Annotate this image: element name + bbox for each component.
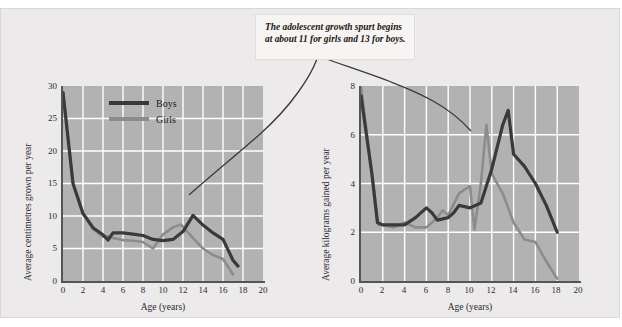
x-tick-right-0: 0 [351,285,371,295]
x-axis-label-left: Age (years) [63,302,263,312]
x-tick-left-18: 18 [233,285,253,295]
x-tick-left-10: 10 [153,285,173,295]
x-tick-right-12: 12 [481,285,501,295]
y-tick-left-5: 5 [31,243,57,253]
figure-panel: Average centimetres grown per year 30 25… [0,8,620,318]
y-tick-right-2: 2 [329,227,355,237]
x-axis-label-right: Age (years) [361,302,579,312]
x-tick-right-20: 20 [568,285,588,295]
y-tick-right-4: 4 [329,179,355,189]
x-tick-left-20: 20 [253,285,273,295]
y-tick-left-10: 10 [31,211,57,221]
gridlines-right [361,86,579,281]
x-axis-line-right [359,281,581,283]
x-tick-left-8: 8 [133,285,153,295]
callout-annotation: The adolescent growth spurt begins at ab… [255,14,415,60]
x-tick-left-14: 14 [193,285,213,295]
y-tick-left-20: 20 [31,146,57,156]
x-tick-left-2: 2 [73,285,93,295]
x-tick-left-4: 4 [93,285,113,295]
x-tick-left-6: 6 [113,285,133,295]
legend-swatch-girls-icon [109,117,149,120]
y-tick-right-8: 8 [329,81,355,91]
legend-label-boys: Boys [156,98,177,109]
y-tick-right-6: 6 [329,130,355,140]
series-line-girls-right [361,86,557,279]
x-tick-right-14: 14 [503,285,523,295]
callout-text: The adolescent growth spurt begins at ab… [265,22,405,44]
y-tick-left-25: 25 [31,113,57,123]
x-tick-left-16: 16 [213,285,233,295]
series-line-boys-right [361,96,557,232]
x-tick-right-2: 2 [372,285,392,295]
x-tick-right-4: 4 [394,285,414,295]
legend-left: Boys Girls [109,95,177,127]
y-axis-label-right: Average kilograms gained per year [321,148,331,281]
x-axis-line-left [61,281,265,283]
legend-item-boys: Boys [109,95,177,111]
legend-label-girls: Girls [156,114,176,125]
x-tick-left-0: 0 [53,285,73,295]
y-tick-left-30: 30 [31,81,57,91]
x-tick-right-6: 6 [416,285,436,295]
x-tick-right-18: 18 [546,285,566,295]
x-tick-right-16: 16 [525,285,545,295]
plot-svg-right [361,86,579,281]
x-tick-right-8: 8 [438,285,458,295]
legend-swatch-boys-icon [109,101,149,104]
x-tick-left-12: 12 [173,285,193,295]
legend-item-girls: Girls [109,111,177,127]
y-tick-left-15: 15 [31,178,57,188]
plot-area-right [361,86,579,281]
x-tick-right-10: 10 [459,285,479,295]
